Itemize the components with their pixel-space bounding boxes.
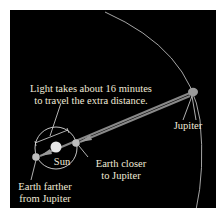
- jupiter-label: Jupiter: [163, 120, 213, 132]
- earth-closer-line-2: to Jupiter: [88, 170, 154, 182]
- earth-closer: [72, 139, 80, 147]
- earth-closer-leader: [79, 146, 88, 157]
- arrowhead-far: [40, 149, 52, 156]
- diagram-panel: Light takes about 16 minutes to travel t…: [10, 10, 216, 208]
- earth-closer-label: Earth closer to Jupiter: [88, 158, 154, 182]
- earth-farther: [32, 153, 40, 161]
- earth-farther-label: Earth farther from Jupiter: [10, 181, 80, 205]
- earth-farther-leader: [31, 160, 36, 180]
- earth-farther-line-2: from Jupiter: [10, 193, 80, 205]
- caption-leader: [50, 103, 61, 136]
- jupiter-leader-1: [183, 96, 192, 120]
- sun: [51, 142, 62, 153]
- jupiter: [188, 88, 198, 96]
- earth-farther-line-1: Earth farther: [10, 181, 80, 193]
- light-caption: Light takes about 16 minutes to travel t…: [12, 83, 170, 107]
- sun-label: Sun: [47, 156, 77, 168]
- caption-line-2: to travel the extra distance.: [12, 95, 170, 107]
- caption-line-1: Light takes about 16 minutes: [12, 83, 170, 95]
- earth-closer-line-1: Earth closer: [88, 158, 154, 170]
